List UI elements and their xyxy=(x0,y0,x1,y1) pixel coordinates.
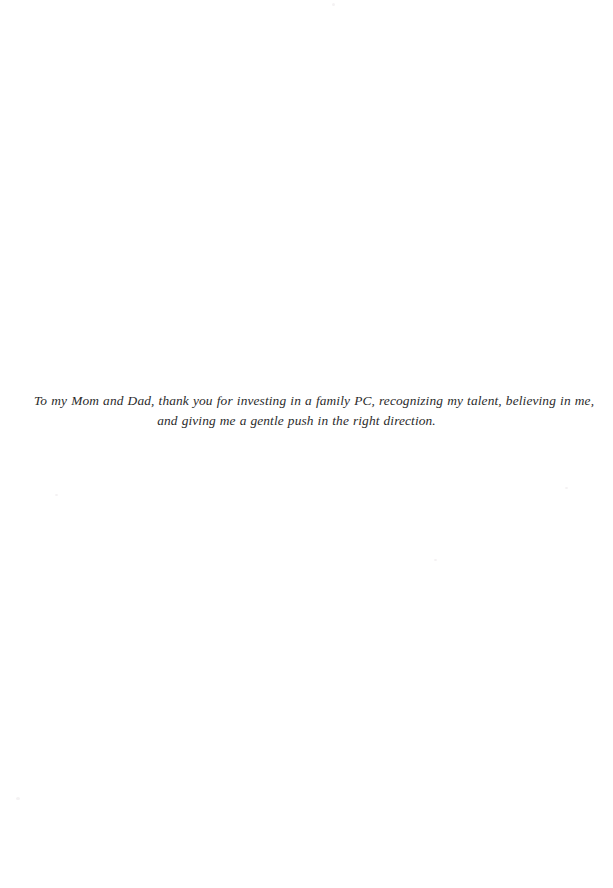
dedication-line-1: To my Mom and Dad, thank you for investi… xyxy=(34,391,559,411)
scan-artifact-speck xyxy=(332,3,335,6)
scan-artifact-speck xyxy=(16,797,20,800)
scan-artifact-speck xyxy=(434,559,437,561)
scan-artifact-speck xyxy=(55,494,58,496)
document-page: To my Mom and Dad, thank you for investi… xyxy=(0,0,613,888)
scan-artifact-speck xyxy=(565,487,568,489)
dedication-line-2: and giving me a gentle push in the right… xyxy=(34,411,559,431)
dedication-text-block: To my Mom and Dad, thank you for investi… xyxy=(34,391,559,431)
